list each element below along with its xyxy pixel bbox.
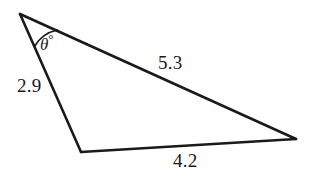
side-label-base: 4.2: [173, 151, 197, 170]
triangle-figure: 5.3 2.9 4.2 θ°: [0, 0, 322, 185]
side-label-left: 2.9: [17, 76, 41, 95]
side-label-hypotenuse: 5.3: [158, 53, 182, 72]
degree-symbol: °: [48, 31, 53, 46]
triangle-drawing: [0, 0, 322, 185]
side-hypotenuse: [20, 14, 296, 139]
angle-label-theta: θ°: [40, 32, 54, 53]
